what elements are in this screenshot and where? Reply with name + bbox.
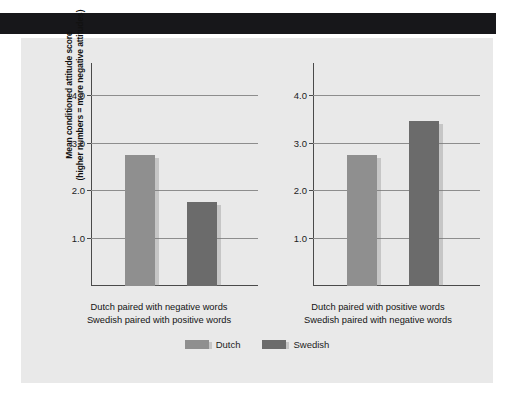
bar-body xyxy=(347,155,377,286)
x-axis-label-left: Dutch paired with negative words Swedish… xyxy=(49,301,269,326)
plot-area-left: 1.02.03.04.0 xyxy=(91,71,256,286)
y-axis-tick-mark xyxy=(87,95,91,96)
y-axis-tick-label: 3.0 xyxy=(72,137,85,148)
y-axis-tick-mark xyxy=(309,143,313,144)
y-axis-tick-label: 2.0 xyxy=(72,185,85,196)
y-axis-line-left xyxy=(91,63,92,286)
gridline xyxy=(313,238,480,239)
bar-dutch xyxy=(125,155,155,286)
x-axis-label-right-line2: Swedish paired with negative words xyxy=(271,314,485,327)
bar-shadow xyxy=(217,205,221,286)
chart-panel-right: 1.02.03.04.0 Dutch paired with positive … xyxy=(271,38,493,328)
legend-swatch-shadow xyxy=(209,342,212,349)
gridline xyxy=(91,95,258,96)
y-axis-tick-mark xyxy=(309,238,313,239)
y-axis-tick-mark xyxy=(87,190,91,191)
y-axis-tick-label: 3.0 xyxy=(294,137,307,148)
gridline xyxy=(91,143,258,144)
y-axis-tick-mark xyxy=(309,95,313,96)
y-axis-tick-mark xyxy=(309,190,313,191)
x-axis-label-left-line1: Dutch paired with negative words xyxy=(49,301,269,314)
plot-area-right: 1.02.03.04.0 xyxy=(313,71,478,286)
y-axis-tick-mark xyxy=(87,143,91,144)
chart-panel-left: Mean conditioned attitude score (higher … xyxy=(21,38,271,328)
legend-item-dutch: Dutch xyxy=(185,339,241,350)
bar-shadow xyxy=(377,158,381,286)
x-axis-label-left-line2: Swedish paired with positive words xyxy=(49,314,269,327)
x-axis-line-left xyxy=(91,285,258,286)
bar-dutch xyxy=(347,155,377,286)
bar-body xyxy=(409,121,439,286)
x-axis-line-right xyxy=(313,285,480,286)
bar-body xyxy=(125,155,155,286)
x-axis-label-right-line1: Dutch paired with positive words xyxy=(271,301,485,314)
legend-label: Swedish xyxy=(293,339,329,350)
legend: DutchSwedish xyxy=(21,330,493,358)
legend-label: Dutch xyxy=(216,339,241,350)
bar-shadow xyxy=(155,158,159,286)
legend-swatch-shadow xyxy=(286,342,289,349)
gridline xyxy=(313,143,480,144)
gridline xyxy=(313,95,480,96)
bar-swedish xyxy=(409,121,439,286)
y-axis-line-right xyxy=(313,63,314,286)
gridline xyxy=(91,190,258,191)
bar-shadow xyxy=(439,124,443,286)
chart-panel: Mean conditioned attitude score (higher … xyxy=(21,38,493,383)
y-axis-tick-label: 1.0 xyxy=(72,233,85,244)
legend-item-swedish: Swedish xyxy=(262,339,329,350)
bar-body xyxy=(187,202,217,286)
legend-swatch-swedish xyxy=(262,340,286,349)
x-axis-label-right: Dutch paired with positive words Swedish… xyxy=(271,301,485,326)
y-axis-tick-label: 4.0 xyxy=(72,89,85,100)
charts-row: Mean conditioned attitude score (higher … xyxy=(21,38,493,328)
y-axis-tick-mark xyxy=(87,238,91,239)
gridline xyxy=(91,238,258,239)
gridline xyxy=(313,190,480,191)
legend-swatch-dutch xyxy=(185,340,209,349)
y-axis-tick-label: 2.0 xyxy=(294,185,307,196)
y-axis-tick-label: 4.0 xyxy=(294,89,307,100)
y-axis-tick-label: 1.0 xyxy=(294,233,307,244)
bar-swedish xyxy=(187,202,217,286)
figure-container: Mean conditioned attitude score (higher … xyxy=(0,0,512,403)
